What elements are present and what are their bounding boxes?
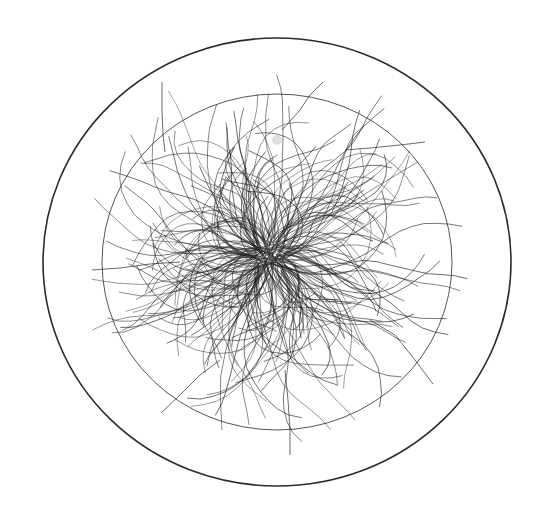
- strand-illustration: [0, 0, 540, 523]
- smudge-mark: [272, 135, 282, 145]
